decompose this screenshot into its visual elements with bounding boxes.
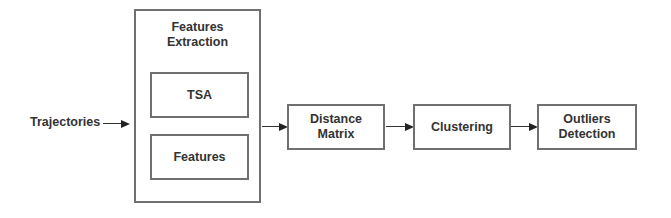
arrow-extraction-to-distance-matrix <box>262 122 288 132</box>
tsa-box: TSA <box>150 72 249 118</box>
arrow-trajectories-to-extraction <box>103 119 130 129</box>
features-label: Features <box>173 150 225 165</box>
clustering-label: Clustering <box>431 120 493 135</box>
arrow-distance-matrix-to-clustering <box>386 122 414 132</box>
clustering-box: Clustering <box>413 104 511 150</box>
distance-matrix-box: Distance Matrix <box>287 104 385 150</box>
trajectories-label: Trajectories <box>30 115 100 130</box>
features-extraction-title: Features Extraction <box>136 20 259 50</box>
distance-matrix-label: Distance Matrix <box>310 112 362 142</box>
features-box: Features <box>150 134 249 180</box>
outliers-detection-label: Outliers Detection <box>559 112 616 142</box>
outliers-detection-box: Outliers Detection <box>537 104 637 150</box>
tsa-label: TSA <box>187 88 212 103</box>
arrow-clustering-to-outliers <box>511 122 538 132</box>
